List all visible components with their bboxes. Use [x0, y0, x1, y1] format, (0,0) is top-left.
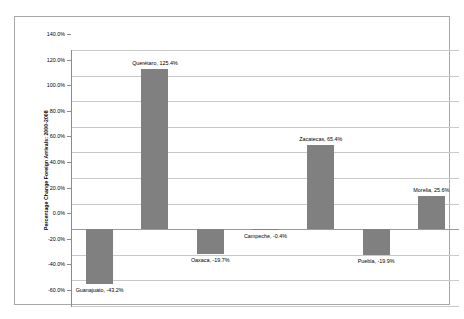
y-axis-tick-label-wrap: -60.0%: [27, 287, 65, 293]
gridline: [72, 306, 459, 307]
y-axis-tick-label-wrap: 140.0%: [27, 31, 65, 37]
gridline: [72, 152, 459, 153]
y-axis-tick-mark: [67, 213, 71, 214]
y-axis-tick-label: 120.0%: [31, 57, 65, 63]
y-axis-tick-label: 0.0%: [31, 210, 65, 216]
bar: [86, 229, 113, 284]
bar: [252, 229, 279, 230]
chart-frame: Percentage Change Foreign Arrivals: 2000…: [14, 16, 450, 305]
bar-data-label: Puebla, -19.9%: [358, 258, 395, 264]
bar-data-label: Oaxaca, -19.7%: [191, 257, 230, 263]
y-axis-tick-mark: [67, 290, 71, 291]
y-axis-tick-label-wrap: 100.0%: [27, 82, 65, 88]
bar: [418, 196, 445, 229]
gridline: [72, 50, 459, 51]
bar: [307, 145, 334, 229]
gridline: [72, 127, 459, 128]
y-axis-tick-label: 140.0%: [31, 31, 65, 37]
gridline: [72, 178, 459, 179]
y-axis-tick-mark: [67, 60, 71, 61]
bar-data-label: Guanajuato, -43.2%: [76, 287, 124, 293]
y-axis-tick-label: 40.0%: [31, 159, 65, 165]
bar: [363, 229, 390, 254]
bar-data-label: Morelia, 25.6%: [413, 187, 449, 193]
y-axis-tick-mark: [67, 188, 71, 189]
y-axis-tick-label: 100.0%: [31, 82, 65, 88]
y-axis-tick-label: 60.0%: [31, 133, 65, 139]
y-axis-tick-label: -40.0%: [31, 261, 65, 267]
y-axis-tick-label-wrap: 40.0%: [27, 159, 65, 165]
y-axis-tick-label: 80.0%: [31, 108, 65, 114]
y-axis-tick-label-wrap: 80.0%: [27, 108, 65, 114]
gridline: [72, 255, 459, 256]
bar-data-label: Zacatecas, 65.4%: [299, 136, 342, 142]
y-axis-title: Percentage Change Foreign Arrivals: 2000…: [41, 70, 51, 230]
plot-area: Guanajuato, -43.2%Querétaro, 125.4%Oaxac…: [72, 50, 459, 306]
y-axis-tick-label: 20.0%: [31, 185, 65, 191]
y-axis-tick-label-wrap: 60.0%: [27, 133, 65, 139]
y-axis-tick-mark: [67, 162, 71, 163]
y-axis-tick-label-wrap: 0.0%: [27, 210, 65, 216]
chart-screenshot: Percentage Change Foreign Arrivals: 2000…: [0, 0, 464, 319]
y-axis-tick-mark: [67, 239, 71, 240]
gridline: [72, 204, 459, 205]
bar: [197, 229, 224, 254]
y-axis-tick-mark: [67, 136, 71, 137]
gridline: [72, 76, 459, 77]
y-axis-tick-label: -20.0%: [31, 236, 65, 242]
y-axis-tick-label-wrap: 20.0%: [27, 185, 65, 191]
bar: [141, 69, 168, 230]
bar-data-label: Campeche, -0.4%: [244, 233, 287, 239]
y-axis-tick-label-wrap: -20.0%: [27, 236, 65, 242]
y-axis-tick-label-wrap: 120.0%: [27, 57, 65, 63]
gridline: [72, 101, 459, 102]
gridline: [72, 280, 459, 281]
y-axis-tick-label-wrap: -40.0%: [27, 261, 65, 267]
y-axis-tick-mark: [67, 264, 71, 265]
y-axis-tick-mark: [67, 111, 71, 112]
y-axis-tick-mark: [67, 85, 71, 86]
y-axis-tick-mark: [67, 34, 71, 35]
bar-data-label: Querétaro, 125.4%: [132, 60, 178, 66]
y-axis-tick-label: -60.0%: [31, 287, 65, 293]
